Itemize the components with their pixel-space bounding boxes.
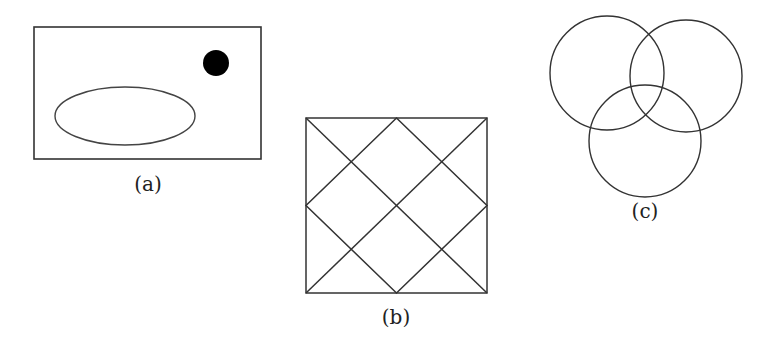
diagram-canvas: (a) (b) (c)	[0, 0, 778, 337]
figure-c: (c)	[550, 16, 742, 223]
figure-b: (b)	[306, 118, 487, 329]
figure-a-rectangle	[34, 27, 261, 159]
figure-a: (a)	[34, 27, 261, 196]
figure-c-circle-right	[630, 20, 742, 132]
figure-a-filled-dot	[203, 50, 229, 76]
figure-c-label: (c)	[632, 199, 659, 223]
figure-c-circle-bottom	[589, 85, 701, 197]
figure-b-label: (b)	[382, 305, 410, 329]
figure-a-ellipse	[55, 87, 195, 145]
figure-a-label: (a)	[134, 172, 162, 196]
figure-c-circle-left	[550, 16, 664, 130]
